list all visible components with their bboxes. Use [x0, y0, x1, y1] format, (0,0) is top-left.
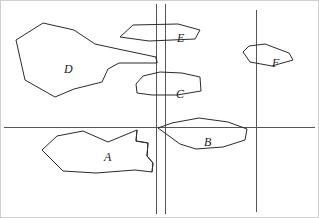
region-label-a: A — [104, 151, 111, 163]
region-label-d: D — [64, 63, 73, 75]
region-label-e: E — [177, 32, 184, 44]
region-label-f: F — [272, 57, 279, 69]
region-label-b: B — [204, 136, 211, 148]
diagram-canvas: ABCDEF — [0, 0, 319, 218]
figure-border — [1, 1, 319, 218]
region-map-svg — [0, 0, 319, 218]
region-label-c: C — [176, 88, 184, 100]
